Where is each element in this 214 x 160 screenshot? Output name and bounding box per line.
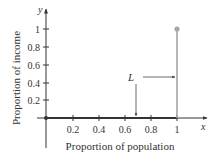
annotation-label: L [127, 71, 134, 83]
endpoint-dot [174, 26, 179, 31]
y-tick-label: 1 [35, 24, 40, 35]
lorenz-chart: y x 0.2 0.4 0.6 0.8 1 0.2 0.4 0.6 0.8 1 … [0, 0, 214, 160]
x-tick-label: 0.8 [145, 124, 158, 135]
y-axis-symbol: y [37, 4, 43, 15]
annotation-L: L [127, 71, 175, 116]
x-axis-label: Proportion of population [66, 140, 175, 152]
y-tick-label: 0.4 [28, 78, 41, 89]
x-tick-label: 1 [175, 124, 180, 135]
y-tick-label: 0.2 [28, 95, 41, 106]
y-tick-label: 0.6 [28, 60, 41, 71]
x-tick-label: 0.2 [67, 124, 80, 135]
origin-point [44, 116, 48, 120]
x-tick-label: 0.4 [93, 124, 106, 135]
y-axis-label: Proportion of income [10, 31, 22, 125]
x-axis-symbol: x [200, 121, 206, 132]
x-tick-label: 0.6 [119, 124, 132, 135]
y-tick-label: 0.8 [28, 42, 41, 53]
